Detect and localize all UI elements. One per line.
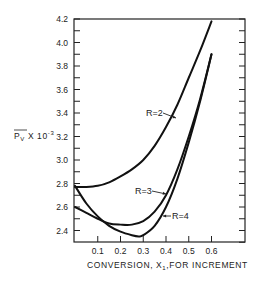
x-tick-label: 0.1 <box>92 246 104 256</box>
series-r-3 <box>75 54 212 225</box>
chart: 2.42.62.83.03.23.43.63.84.04.2 0.10.20.3… <box>0 0 258 281</box>
y-tick-label: 2.6 <box>56 202 68 212</box>
x-axis-label: CONVERSION, X1,FOR INCREMENT <box>87 260 248 271</box>
y-tick-label: 3.0 <box>56 155 68 165</box>
y-tick-label: 4.2 <box>56 14 68 24</box>
x-tick-label: 0.5 <box>183 246 195 256</box>
series-r-4 <box>75 54 212 236</box>
arrow-icon <box>163 214 166 217</box>
x-tick-label: 0.6 <box>206 246 218 256</box>
y-tick-label: 3.4 <box>56 108 68 118</box>
x-axis-ticks: 0.10.20.30.40.50.6 <box>92 236 218 256</box>
x-tick-label: 0.3 <box>137 246 149 256</box>
y-tick-label: 3.6 <box>56 85 68 95</box>
y-axis-label: PVX 10-3 <box>14 130 54 142</box>
y-tick-label: 2.4 <box>56 226 68 236</box>
annotation-label: R=2 <box>146 108 163 118</box>
y-axis-ticks: 2.42.62.83.03.23.43.63.84.04.2 <box>56 14 245 242</box>
series-r-2 <box>75 21 212 187</box>
y-tick-label: 2.8 <box>56 179 68 189</box>
plot-frame <box>74 19 245 242</box>
annotation-label: R=4 <box>172 211 189 221</box>
y-tick-label: 3.2 <box>56 132 68 142</box>
annotations: R=2R=3R=4 <box>135 108 189 221</box>
x-tick-label: 0.2 <box>115 246 127 256</box>
y-tick-label: 4.0 <box>56 38 68 48</box>
annotation-label: R=3 <box>135 186 152 196</box>
x-tick-label: 0.4 <box>160 246 172 256</box>
series-lines <box>75 21 212 236</box>
y-tick-label: 3.8 <box>56 61 68 71</box>
